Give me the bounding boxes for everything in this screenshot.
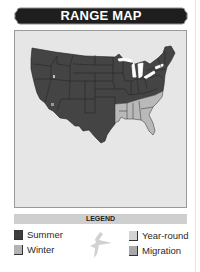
title-banner: RANGE MAP (14, 7, 188, 25)
legend-header: LEGEND (14, 214, 187, 224)
legend-title: LEGEND (14, 214, 187, 224)
range-map (14, 30, 187, 208)
legend-label-summer: Summer (27, 229, 63, 240)
summer-swatch (14, 230, 23, 240)
legend-item-migration: Migration (129, 245, 181, 256)
legend-label-year-round: Year-round (142, 230, 189, 241)
winter-swatch (14, 245, 23, 255)
winter-patch-arizona (51, 103, 54, 106)
winter-patch-nevada (53, 75, 55, 78)
legend-item-summer: Summer (14, 229, 63, 240)
page-title: RANGE MAP (14, 7, 188, 25)
migration-swatch (129, 246, 138, 256)
legend-label-winter: Winter (27, 244, 54, 255)
year-round-swatch (129, 231, 138, 241)
page-edge-rule (195, 0, 196, 272)
us-range-map (15, 31, 186, 207)
legend-item-winter: Winter (14, 244, 54, 255)
legend-label-migration: Migration (142, 245, 181, 256)
bird-silhouette-icon (86, 230, 114, 260)
legend-item-year-round: Year-round (129, 230, 189, 241)
